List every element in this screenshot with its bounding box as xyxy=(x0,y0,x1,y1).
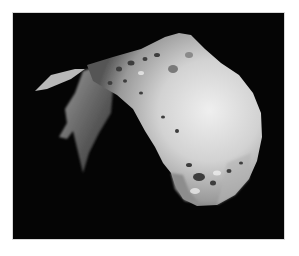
asteroid-photo xyxy=(13,13,284,239)
photo-frame xyxy=(13,13,284,239)
